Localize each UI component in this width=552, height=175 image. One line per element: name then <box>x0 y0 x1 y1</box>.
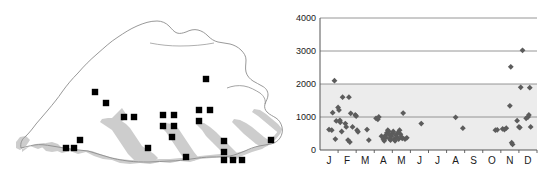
scatter-point <box>520 47 526 53</box>
map-record-point <box>221 138 227 144</box>
figure-container: 01000200030004000 JFMAMJJASOND <box>0 0 552 175</box>
map-record-point <box>63 145 69 151</box>
map-record-point <box>131 114 137 120</box>
x-axis-tick-labels: JFMAMJJASOND <box>327 155 532 166</box>
map-record-point <box>92 89 98 95</box>
elevation-scatter-svg: 01000200030004000 JFMAMJJASOND <box>285 0 552 175</box>
y-tick-label: 2000 <box>296 79 316 89</box>
bhutan-map-svg <box>0 0 285 175</box>
map-distribution-points <box>63 76 274 163</box>
x-tick-label: M <box>397 155 405 166</box>
x-tick-label: S <box>470 155 477 166</box>
y-tick-label: 4000 <box>296 13 316 23</box>
map-record-point <box>221 149 227 155</box>
map-record-point <box>230 157 236 163</box>
y-tick-label: 0 <box>311 145 316 155</box>
map-record-point <box>171 112 177 118</box>
map-terrain-shading <box>16 108 282 164</box>
map-internal-ridge-line <box>150 43 214 46</box>
y-axis-tick-labels: 01000200030004000 <box>296 13 316 155</box>
scatter-point <box>508 64 514 70</box>
elevation-scatter-panel: 01000200030004000 JFMAMJJASOND <box>285 0 552 175</box>
map-record-point <box>196 118 202 124</box>
x-tick-label: J <box>435 155 440 166</box>
distribution-map-panel <box>0 0 285 175</box>
x-tick-label: A <box>452 155 459 166</box>
map-record-point <box>268 137 274 143</box>
y-tick-label: 3000 <box>296 46 316 56</box>
map-record-point <box>121 114 127 120</box>
y-tick-label: 1000 <box>296 112 316 122</box>
scatter-point <box>332 78 338 84</box>
x-tick-label: O <box>488 155 496 166</box>
map-record-point <box>183 154 189 160</box>
map-record-point <box>103 100 109 106</box>
x-tick-label: F <box>344 155 350 166</box>
x-tick-label: J <box>327 155 332 166</box>
x-tick-label: A <box>380 155 387 166</box>
map-record-point <box>169 134 175 140</box>
map-record-point <box>221 157 227 163</box>
map-record-point <box>239 157 245 163</box>
map-record-point <box>160 112 166 118</box>
map-record-point <box>145 145 151 151</box>
map-record-point <box>77 137 83 143</box>
x-tick-label: J <box>417 155 422 166</box>
x-tick-label: N <box>506 155 513 166</box>
map-record-point <box>203 76 209 82</box>
map-record-point <box>160 123 166 129</box>
bhutan-country-outline <box>21 21 283 162</box>
x-tick-label: M <box>361 155 369 166</box>
x-tick-label: D <box>524 155 531 166</box>
map-record-point <box>196 107 202 113</box>
map-record-point <box>207 107 213 113</box>
bhutan-eastern-boundary-detail <box>227 86 265 104</box>
map-record-point <box>71 145 77 151</box>
map-record-point <box>171 123 177 129</box>
